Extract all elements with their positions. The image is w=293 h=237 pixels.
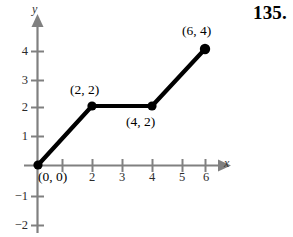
y-tick-label-2: 2 — [10, 100, 28, 115]
point-label-0-0: (0, 0) — [38, 169, 67, 185]
y-tick-label-1: 1 — [10, 129, 28, 144]
y-tick-label-3: 3 — [10, 73, 28, 88]
x-axis-label: x — [224, 156, 229, 171]
data-point-6-4 — [200, 44, 210, 54]
point-label-2-2: (2, 2) — [70, 82, 99, 98]
x-tick-label-6: 6 — [198, 170, 214, 185]
x-tick-label-3: 3 — [114, 170, 130, 185]
x-tick-label-5: 5 — [174, 170, 190, 185]
point-label-4-2: (4, 2) — [126, 114, 155, 130]
data-point-2-2 — [87, 101, 96, 110]
x-tick-label-2: 2 — [84, 170, 100, 185]
x-tick-label-4: 4 — [144, 170, 160, 185]
y-tick-label-neg2: −2 — [6, 218, 28, 233]
piecewise-linear-curve — [38, 49, 205, 165]
point-label-6-4: (6, 4) — [182, 23, 211, 39]
y-tick-label-neg1: −1 — [6, 189, 28, 204]
graph-figure: 135. x y 2 3 4 5 6 4 3 2 1 −1 −2 (0, 0) … — [0, 0, 293, 237]
data-point-4-2 — [147, 101, 156, 110]
y-tick-label-4: 4 — [10, 44, 28, 59]
y-axis-label: y — [32, 2, 37, 17]
exercise-number: 135. — [253, 2, 287, 24]
